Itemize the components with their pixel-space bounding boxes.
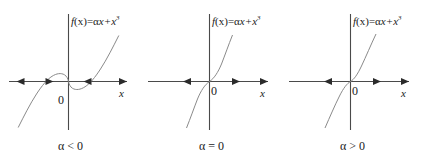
x-axis-arrowhead-icon: [119, 78, 127, 85]
origin-label: 0: [352, 85, 358, 97]
x-axis-label: x: [260, 88, 265, 99]
panel-alpha-positive: f(x)=αx+x3 0 x α > 0: [282, 0, 423, 160]
x-axis-label: x: [401, 88, 406, 99]
flow-arrow-left-icon: [324, 78, 332, 85]
formula-label: f(x)=αx+x3: [353, 15, 402, 27]
flow-arrow-right-icon: [232, 78, 240, 85]
panel-alpha-negative: f(x)=αx+x3 0 x α < 0: [0, 0, 141, 160]
origin-label: 0: [58, 94, 64, 106]
panel-caption: α > 0: [282, 139, 423, 154]
origin-label: 0: [211, 85, 217, 97]
panel-caption: α = 0: [141, 139, 282, 154]
formula-label: f(x)=αx+x3: [212, 15, 261, 27]
flow-arrow-right-icon: [373, 78, 381, 85]
flow-arrow-left-outer-icon: [17, 78, 25, 85]
x-axis-arrowhead-icon: [260, 78, 268, 85]
panel-caption: α < 0: [0, 139, 141, 154]
formula-label: f(x)=αx+x3: [71, 15, 120, 27]
bifurcation-figure: f(x)=αx+x3 0 x α < 0 f(x)=αx+x3 0 x α = …: [0, 0, 423, 160]
x-axis-label: x: [119, 88, 124, 99]
flow-arrow-left-icon: [183, 78, 191, 85]
flow-arrow-right-inner-left-icon: [46, 78, 54, 85]
flow-arrow-left-inner-right-icon: [84, 78, 92, 85]
x-axis-arrowhead-icon: [401, 78, 409, 85]
panel-alpha-zero: f(x)=αx+x3 0 x α = 0: [141, 0, 282, 160]
